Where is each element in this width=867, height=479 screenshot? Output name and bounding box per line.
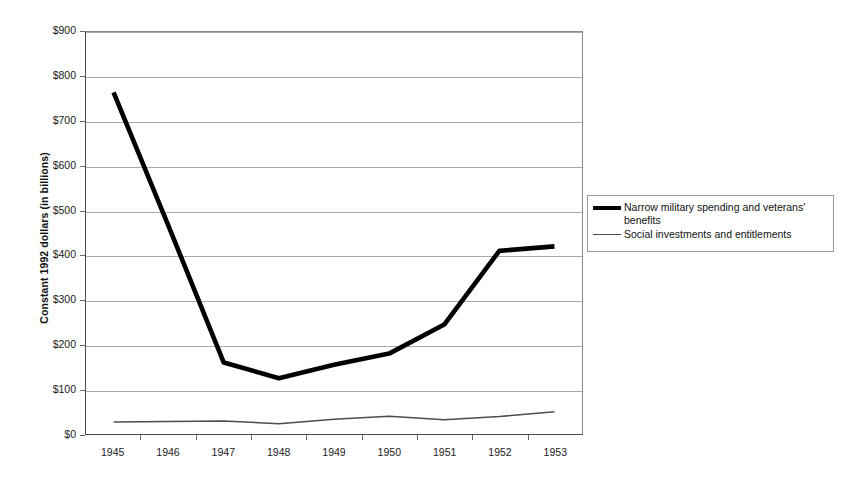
x-axis-tick-label: 1950 (359, 446, 419, 458)
y-axis-tick-mark (80, 435, 85, 436)
x-axis-tick-mark (306, 435, 307, 440)
plot-area (85, 31, 583, 435)
y-axis-tick-label: $0 (18, 428, 76, 440)
series-line-1 (114, 92, 555, 378)
legend-label: Narrow military spending and veterans' b… (624, 201, 829, 226)
x-axis-tick-mark (196, 435, 197, 440)
series-line-2 (114, 412, 555, 424)
y-axis-tick-label: $600 (18, 159, 76, 171)
y-axis-tick-label: $300 (18, 293, 76, 305)
y-axis-tick-label: $700 (18, 114, 76, 126)
x-axis-tick-mark (362, 435, 363, 440)
x-axis-tick-label: 1953 (525, 446, 585, 458)
legend-entry[interactable]: Social investments and entitlements (593, 228, 829, 241)
legend-line-swatch-icon (593, 206, 621, 210)
legend-label: Social investments and entitlements (624, 228, 792, 241)
y-axis-tick-label: $200 (18, 338, 76, 350)
series-lines (86, 32, 582, 434)
x-axis-tick-mark (417, 435, 418, 440)
y-axis-tick-label: $100 (18, 383, 76, 395)
y-axis-tick-label: $500 (18, 204, 76, 216)
legend-entry[interactable]: Narrow military spending and veterans' b… (593, 201, 829, 226)
x-axis-tick-mark (528, 435, 529, 440)
x-axis-tick-label: 1948 (249, 446, 309, 458)
x-axis-tick-label: 1947 (193, 446, 253, 458)
x-axis-tick-label: 1949 (304, 446, 364, 458)
x-axis-tick-mark (251, 435, 252, 440)
y-axis-title: Constant 1992 dollars (in billions) (38, 118, 50, 358)
x-axis-tick-label: 1951 (415, 446, 475, 458)
x-axis-tick-mark (140, 435, 141, 440)
y-axis-tick-label: $400 (18, 248, 76, 260)
legend-line-swatch-icon (593, 234, 621, 235)
x-axis-tick-label: 1946 (138, 446, 198, 458)
legend: Narrow military spending and veterans' b… (587, 195, 834, 252)
line-chart-figure: Constant 1992 dollars (in billions) $900… (0, 0, 867, 479)
x-axis-tick-label: 1952 (470, 446, 530, 458)
x-axis-tick-label: 1945 (83, 446, 143, 458)
y-axis-tick-label: $800 (18, 69, 76, 81)
x-axis-tick-mark (472, 435, 473, 440)
y-axis-tick-label: $900 (18, 24, 76, 36)
